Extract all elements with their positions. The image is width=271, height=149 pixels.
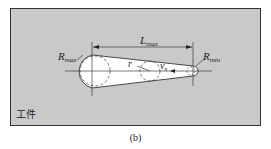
teardrop-shape bbox=[79, 55, 198, 88]
l-max-label: Lmax bbox=[140, 34, 158, 48]
r-min-label: Rmin bbox=[203, 50, 220, 64]
v-label: vs bbox=[160, 60, 167, 73]
workpiece-label: 工件 bbox=[16, 106, 36, 121]
tool-path-diagram bbox=[0, 0, 271, 149]
r-max-label: Rmax bbox=[58, 50, 76, 64]
figure-caption: (b) bbox=[0, 132, 271, 143]
r-label: r bbox=[128, 58, 132, 69]
